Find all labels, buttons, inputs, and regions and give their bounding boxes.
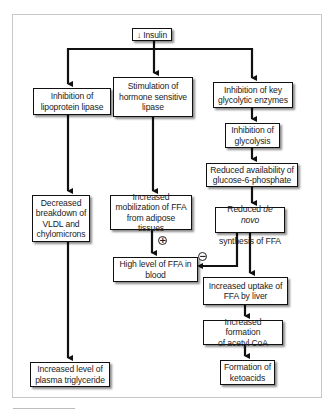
positive-sign-icon: +	[158, 236, 167, 245]
de-novo-synthesis-box: Reduced de novo synthesis of FFA	[215, 207, 285, 233]
lipoprotein-lipase-box: Inhibition of lipoprotein lipase	[33, 88, 111, 115]
glycolytic-enzymes-label: Inhibition of key glycolytic enzymes	[218, 85, 288, 106]
acetyl-coa-box: Increased formation of acetyl CoA	[203, 320, 283, 345]
lipoprotein-lipase-label: Inhibition of lipoprotein lipase	[41, 91, 104, 112]
glycolytic-enzymes-box: Inhibition of key glycolytic enzymes	[213, 82, 293, 108]
ketoacids-label: Formation of ketoacids	[224, 362, 271, 383]
ffa-uptake-liver-box: Increased uptake of FFA by liver	[203, 277, 288, 305]
hormone-sensitive-lipase-label: Stimulation of hormone sensitive lipase	[119, 81, 187, 113]
insulin-label: Insulin	[143, 30, 167, 40]
plasma-triglyceride-box: Increased level of plasma triglyceride	[30, 362, 110, 387]
hormone-sensitive-lipase-box: Stimulation of hormone sensitive lipase	[113, 77, 193, 117]
ketoacids-box: Formation of ketoacids	[220, 360, 275, 385]
glucose-6-phosphate-box: Reduced availability of glucose-6-phosph…	[206, 163, 298, 187]
ffa-uptake-liver-label: Increased uptake of FFA by liver	[209, 281, 283, 302]
de-novo-suffix: synthesis of FFA	[219, 236, 281, 246]
insulin-box: ↓ Insulin	[132, 28, 172, 41]
vldl-breakdown-box: Decreased breakdown of VLDL and chylomic…	[32, 195, 90, 242]
down-arrow-icon: ↓	[137, 30, 141, 40]
vldl-breakdown-label: Decreased breakdown of VLDL and chylomic…	[36, 198, 86, 240]
plasma-triglyceride-label: Increased level of plasma triglyceride	[35, 364, 105, 385]
de-novo-prefix: Reduced	[227, 204, 263, 214]
negative-sign-icon: −	[198, 252, 207, 261]
ffa-mobilization-label: Increased mobilization of FFA from adipo…	[113, 192, 189, 234]
glycolysis-label: Inhibition of glycolysis	[231, 125, 274, 146]
ffa-mobilization-box: Increased mobilization of FFA from adipo…	[110, 195, 192, 230]
high-ffa-blood-box: High level of FFA in blood	[113, 257, 198, 282]
high-ffa-blood-label: High level of FFA in blood	[119, 259, 191, 280]
glycolysis-box: Inhibition of glycolysis	[225, 123, 280, 148]
acetyl-coa-label: Increased formation of acetyl CoA	[206, 317, 280, 349]
glucose-6-phosphate-label: Reduced availability of glucose-6-phosph…	[210, 165, 294, 186]
de-novo-synthesis-label: Reduced de novo synthesis of FFA	[218, 194, 282, 247]
